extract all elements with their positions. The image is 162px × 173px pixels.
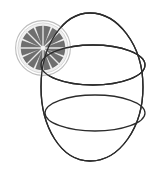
ovoid-citrus-diagram [0, 0, 162, 173]
figure-background [0, 0, 162, 173]
figure-canvas: Line drawing of an egg-shaped solid cros… [0, 0, 162, 173]
citrus-center-core [41, 46, 45, 50]
